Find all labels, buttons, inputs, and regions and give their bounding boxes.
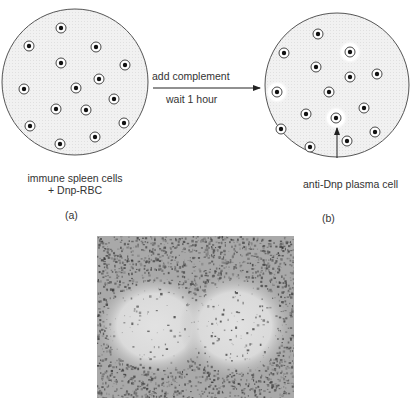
panel-b-dish xyxy=(265,13,409,158)
cell-icon xyxy=(313,29,323,39)
panel-a-caption-line1: immune spleen cells xyxy=(20,172,130,184)
cell-icon xyxy=(94,74,104,84)
cell-icon xyxy=(120,60,130,70)
cell-icon xyxy=(324,87,334,97)
cell-icon xyxy=(331,113,341,123)
cell-icon xyxy=(272,87,282,97)
cell-icon xyxy=(56,23,66,33)
cell-icon xyxy=(345,47,355,57)
cell-icon xyxy=(345,72,355,82)
cell-icon xyxy=(90,132,100,142)
cell-icon xyxy=(311,62,321,72)
panel-a-caption-line2: + Dnp-RBC xyxy=(20,184,130,196)
cell-icon xyxy=(342,136,352,146)
cell-icon xyxy=(372,69,382,79)
panel-a-caption: immune spleen cells + Dnp-RBC xyxy=(20,172,130,196)
panel-b-label: (b) xyxy=(322,212,335,224)
cell-icon xyxy=(305,142,315,152)
panel-a-label: (a) xyxy=(65,209,78,221)
arrow-label-bottom: wait 1 hour xyxy=(166,93,217,105)
plaque-micrograph xyxy=(97,236,294,398)
cell-icon xyxy=(25,121,35,131)
cell-icon xyxy=(370,127,380,137)
cell-icon xyxy=(301,109,311,119)
panel-a-dish xyxy=(2,9,148,155)
cell-icon xyxy=(91,42,101,52)
plasma-cell-annotation: anti-Dnp plasma cell xyxy=(303,178,398,190)
cell-icon xyxy=(119,118,129,128)
cell-icon xyxy=(359,103,369,113)
cell-icon xyxy=(56,58,66,68)
cell-icon xyxy=(24,41,34,51)
cell-icon xyxy=(19,84,29,94)
cell-icon xyxy=(276,124,286,134)
cell-icon xyxy=(51,104,61,114)
cell-icon xyxy=(81,105,91,115)
cell-icon xyxy=(279,48,289,58)
arrow-label-top: add complement xyxy=(152,70,230,82)
cell-icon xyxy=(71,83,81,93)
cell-icon xyxy=(109,94,119,104)
cell-icon xyxy=(55,139,65,149)
